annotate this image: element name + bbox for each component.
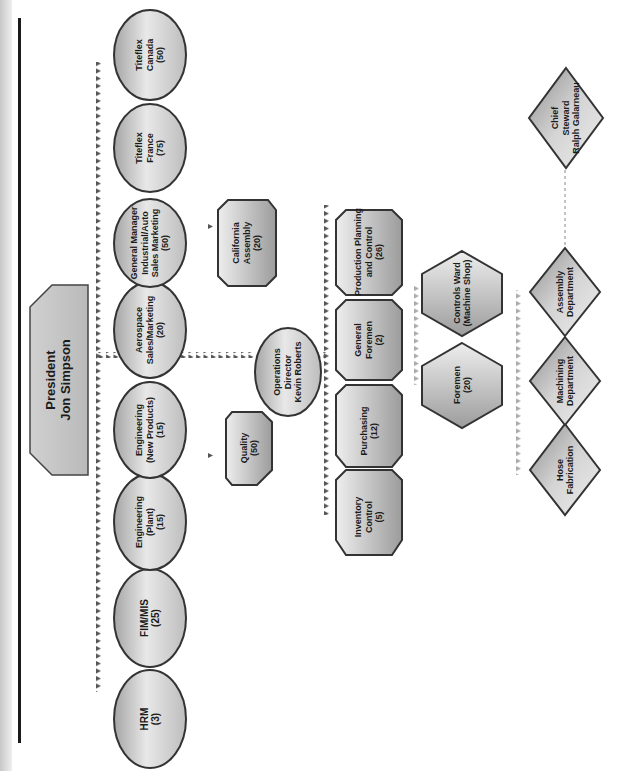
label-line: Operations — [272, 342, 282, 403]
label-line: Sales/Marketing — [145, 296, 155, 365]
label-line: and Control — [364, 208, 374, 296]
label-line: (50) — [155, 39, 165, 72]
label-line: (25) — [150, 599, 162, 637]
gm-industrial-label: General ManagerIndustrial/AutoSales Mark… — [125, 203, 175, 283]
label-line: (3) — [150, 708, 162, 731]
california-label: CaliforniaAssembly(20) — [232, 208, 262, 278]
label-line: Industrial/Auto — [140, 206, 150, 279]
eng-plant-label: Engineering(Plant)(15) — [130, 482, 170, 562]
president-title: President — [44, 339, 59, 421]
titeflex-canada-label: TiteflexCanada(50) — [130, 15, 170, 95]
label-line: (20) — [462, 366, 472, 404]
label-line: (50) — [249, 433, 259, 464]
quality-label: Quality(50) — [234, 413, 264, 483]
label-line: Canada — [145, 39, 155, 72]
connector-spine-departments — [515, 290, 521, 475]
label-line: (New Products) — [145, 397, 155, 463]
label-line: Director — [283, 342, 293, 403]
label-line: (5) — [374, 497, 384, 538]
label-line: (75) — [155, 132, 165, 163]
label-line: Control — [364, 497, 374, 538]
label-line: Engineering — [134, 397, 144, 463]
label-line: General — [353, 321, 363, 359]
label-line: Department — [565, 356, 575, 406]
label-line: Inventory — [353, 497, 363, 538]
label-line: (12) — [369, 407, 379, 456]
label-line: Production Planning — [353, 208, 363, 296]
label-line: Fabrication — [565, 446, 575, 495]
connector-spine-president — [96, 62, 102, 692]
label-line: Quality — [239, 433, 249, 464]
label-line: Controls Ward — [452, 260, 462, 327]
label-line: (Machine Shop) — [462, 260, 472, 327]
label-line: France — [145, 132, 155, 163]
org-chart-canvas — [0, 0, 629, 771]
general-foremen-label: GeneralForemen(2) — [349, 300, 389, 380]
label-line: (2) — [374, 321, 384, 359]
label-line: Foremen — [452, 366, 462, 404]
label-line: Kevin Roberts — [293, 342, 303, 403]
chief-steward-label: ChiefStewardRalph Galarneau — [546, 78, 586, 158]
machining-label: MachiningDepartment — [550, 346, 580, 416]
eng-new-label: Engineering(New Products)(15) — [130, 390, 170, 470]
aerospace-label: AerospaceSales/Marketing(20) — [130, 290, 170, 370]
label-line: Titeflex — [134, 39, 144, 72]
connector-spine-foremen — [413, 285, 419, 385]
fim-mis-label: FIM/MIS(25) — [130, 578, 170, 658]
assembly-label: AssemblyDepartment — [550, 257, 580, 327]
label-line: Steward — [561, 82, 571, 154]
label-line: Aerospace — [134, 296, 144, 365]
label-line: (15) — [155, 496, 165, 548]
hrm-label: HRM(3) — [130, 679, 170, 759]
label-line: Department — [565, 267, 575, 317]
foremen-label: Foremen(20) — [442, 345, 482, 425]
inventory-label: InventoryControl(5) — [349, 477, 389, 557]
president-name: Jon Simpson — [59, 339, 74, 421]
label-line: General Manager — [129, 206, 139, 279]
label-line: Foremen — [364, 321, 374, 359]
production-planning-label: Production Planningand Control(26) — [344, 207, 394, 297]
label-line: HRM — [139, 708, 151, 731]
label-line: Ralph Galarneau — [571, 82, 581, 154]
label-line: (15) — [155, 397, 165, 463]
label-line: Hose — [555, 446, 565, 495]
label-line: (20) — [252, 222, 262, 265]
label-line: (26) — [374, 208, 384, 296]
label-line: Chief — [550, 82, 560, 154]
label-line: Purchasing — [359, 407, 369, 456]
label-line: Titeflex — [134, 132, 144, 163]
president-label: PresidentJon Simpson — [29, 320, 89, 440]
label-line: California — [231, 222, 241, 265]
connector-spine-operations — [324, 205, 330, 515]
label-line: Sales Marketing — [150, 206, 160, 279]
titeflex-france-label: TiteflexFrance(75) — [130, 108, 170, 188]
label-line: (20) — [155, 296, 165, 365]
label-line: FIM/MIS — [139, 599, 151, 637]
purchasing-label: Purchasing(12) — [349, 391, 389, 471]
label-line: Assembly — [555, 267, 565, 317]
label-line: (Plant) — [145, 496, 155, 548]
label-line: Engineering — [134, 496, 144, 548]
label-line: Machining — [555, 356, 565, 406]
controls-ward-label: Controls Ward(Machine Shop) — [442, 253, 482, 333]
label-line: Assembly — [242, 222, 252, 265]
hose-label: HoseFabrication — [550, 435, 580, 505]
operations-label: OperationsDirectorKevin Roberts — [268, 332, 308, 412]
label-line: (50) — [160, 206, 170, 279]
